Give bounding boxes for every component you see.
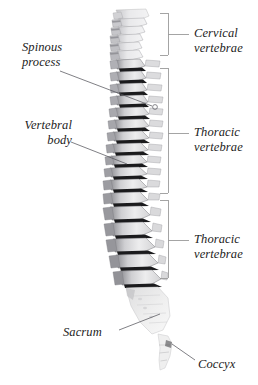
spine-anatomy-figure: Cervical vertebrae Thoracic vertebrae Th… xyxy=(0,0,258,385)
bracket-thoracic-upper xyxy=(160,68,189,193)
bracket-thoracic-lower xyxy=(160,200,189,278)
callout-label-sacrum: Sacrum xyxy=(63,325,102,340)
thoracic-region xyxy=(103,59,163,207)
bracket-label-thoracic-lower: Thoracic vertebrae xyxy=(194,232,243,261)
cervical-region xyxy=(110,9,149,60)
coccyx-region xyxy=(158,334,172,370)
bracket-group xyxy=(160,13,189,278)
bracket-label-cervical: Cervical vertebrae xyxy=(194,26,243,55)
callout-label-spinous-process: Spinous process xyxy=(22,40,60,69)
bracket-cervical xyxy=(160,13,189,55)
sacrum-region xyxy=(126,287,170,334)
bracket-label-thoracic-upper: Thoracic vertebrae xyxy=(194,125,243,154)
leader-coccyx xyxy=(172,344,195,360)
callout-label-vertebral-body: Vertebral body xyxy=(14,118,72,147)
lumbar-region xyxy=(103,206,168,288)
callout-label-coccyx: Coccyx xyxy=(198,357,235,372)
